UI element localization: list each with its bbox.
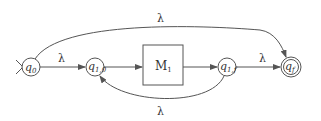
label-q0-q10: λ: [58, 52, 65, 65]
label-bypass: λ: [157, 12, 164, 25]
state-q1-f: q1,f: [218, 58, 238, 76]
machine-m1-box: M1: [143, 45, 183, 85]
label-loop: λ: [157, 105, 164, 118]
state-qf-final: qf: [281, 57, 301, 77]
nfa-diagram: λ λ λ λ q0 q1,0 M1 q1,f qf: [0, 0, 321, 121]
state-q1-0: q1,0: [86, 58, 107, 76]
state-q0: q0: [22, 58, 40, 76]
label-q1f-qf: λ: [259, 52, 266, 65]
